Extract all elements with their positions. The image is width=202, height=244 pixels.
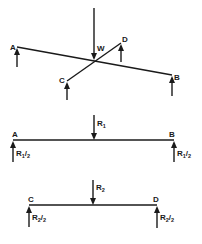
load-r2-label: R2: [96, 183, 105, 193]
support-c-arrow-icon: [64, 82, 70, 100]
reaction-a-label: R1/2: [16, 149, 30, 159]
crossed-beams-figure: W A B C D: [10, 8, 180, 100]
end-c-label: C: [28, 195, 34, 204]
end-b-label: B: [169, 130, 175, 139]
reaction-c-label: R2/2: [32, 213, 46, 223]
beam-ab-figure: R1 A R1/2 B R1/2: [10, 115, 191, 162]
beam-cd-figure: R2 C R2/2 D R2/2: [26, 180, 174, 228]
load-r1-label: R1: [97, 119, 106, 129]
point-a-label: A: [10, 43, 16, 52]
end-a-label: A: [12, 130, 18, 139]
beam-load-diagram: W A B C D R1: [0, 0, 202, 244]
reaction-b-label: R1/2: [177, 149, 191, 159]
end-d-label: D: [153, 195, 159, 204]
load-w-label: W: [97, 44, 105, 53]
point-c-label: C: [59, 76, 65, 85]
point-b-label: B: [174, 73, 180, 82]
support-d-arrow-icon: [118, 44, 124, 62]
reaction-d-label: R2/2: [160, 213, 174, 223]
point-d-label: D: [122, 35, 128, 44]
